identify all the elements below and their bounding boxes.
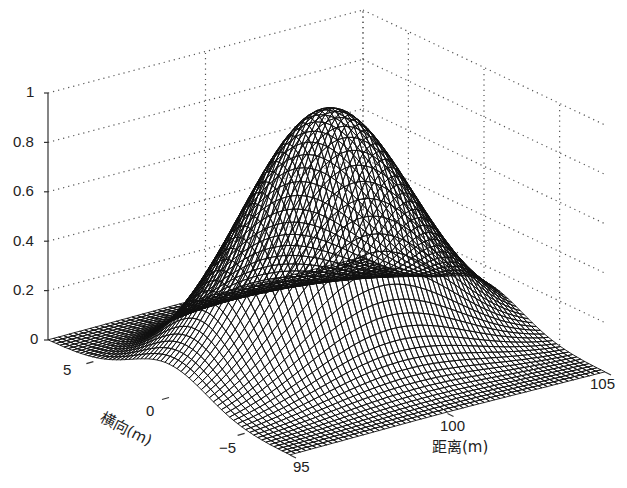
- x-axis-label: 距离(m): [432, 440, 488, 455]
- x-tick-95: 95: [293, 459, 310, 474]
- surface-plot: [0, 0, 627, 488]
- x-tick-100: 100: [440, 418, 465, 433]
- gaussian-surface-mesh: [48, 108, 605, 455]
- y-tick-0: 0: [146, 403, 154, 418]
- z-tick-0.4: 0.4: [13, 233, 34, 248]
- z-tick-0.6: 0.6: [13, 183, 34, 198]
- z-tick-0: 0: [30, 331, 38, 346]
- z-tick-1: 1: [26, 84, 34, 99]
- y-tick-minus5: −5: [219, 440, 236, 455]
- y-tick-5: 5: [63, 362, 71, 377]
- z-axis: [44, 93, 48, 340]
- x-tick-105: 105: [590, 376, 615, 391]
- z-tick-0.2: 0.2: [13, 282, 34, 297]
- z-tick-0.8: 0.8: [13, 134, 34, 149]
